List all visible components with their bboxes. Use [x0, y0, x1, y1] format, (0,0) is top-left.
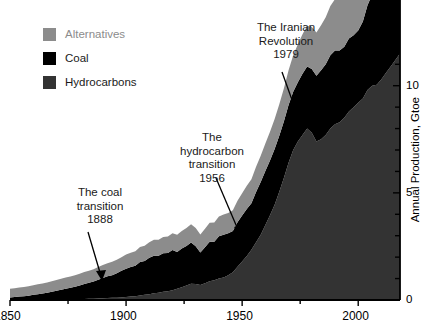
annotation-line: 1979 — [232, 48, 340, 62]
y-tick-label: 0 — [406, 293, 412, 305]
annotation-iranian-revolution: The Iranian Revolution 1979 — [232, 21, 340, 62]
legend-label-alternatives: Alternatives — [65, 28, 125, 41]
legend-item-hydrocarbons: Hydrocarbons — [43, 70, 137, 94]
legend-label-coal: Coal — [65, 52, 89, 65]
x-tick-label: 1950 — [226, 309, 253, 323]
annotation-line: hydrocarbon — [160, 145, 264, 159]
legend-swatch-coal — [43, 52, 56, 65]
annotation-coal-transition: The coal transition 1888 — [52, 186, 148, 227]
annotation-line: 1956 — [160, 172, 264, 186]
annotation-line: transition — [52, 200, 148, 214]
chart-figure: Alternatives Coal Hydrocarbons The coal … — [0, 0, 441, 331]
annotation-hydrocarbon-transition: The hydrocarbon transition 1956 — [160, 131, 264, 185]
legend-swatch-alternatives — [43, 28, 56, 41]
y-tick-label: 10 — [406, 79, 419, 91]
y-axis-title: Annual Production, Gtoe — [409, 97, 421, 222]
annotation-line: 1888 — [52, 213, 148, 227]
legend-label-hydrocarbons: Hydrocarbons — [65, 76, 137, 89]
chart-legend: Alternatives Coal Hydrocarbons — [43, 22, 137, 94]
annotation-line: Revolution — [232, 35, 340, 49]
annotation-line: transition — [160, 158, 264, 172]
x-tick-label: 2000 — [342, 309, 369, 323]
legend-swatch-hydrocarbons — [43, 76, 56, 89]
annotation-line: The Iranian — [232, 21, 340, 35]
legend-item-coal: Coal — [43, 46, 137, 70]
x-tick-label: 1850 — [0, 309, 21, 323]
x-tick-label: 1900 — [110, 309, 137, 323]
legend-item-alternatives: Alternatives — [43, 22, 137, 46]
annotation-line: The — [160, 131, 264, 145]
annotation-line: The coal — [52, 186, 148, 200]
